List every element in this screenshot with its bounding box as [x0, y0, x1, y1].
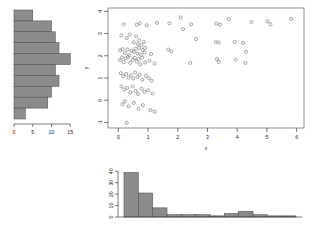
scatter-point — [167, 48, 170, 51]
axis-tick-label: 0 — [108, 215, 114, 218]
histogram-bar — [138, 193, 152, 217]
scatter-point — [142, 40, 145, 43]
scatter-point — [150, 79, 153, 82]
scatter-point — [119, 72, 122, 75]
y-axis-title: y — [83, 66, 89, 69]
scatter-point — [127, 105, 130, 108]
scatter-point — [137, 57, 140, 60]
scatter-point — [134, 89, 137, 92]
axis-tick-label: 15 — [67, 129, 73, 135]
histogram-bar — [239, 211, 253, 217]
axis-tick-label: 5 — [265, 134, 268, 140]
axis-tick-label: 2 — [176, 134, 179, 140]
scatter-point — [147, 89, 150, 92]
histogram-bar — [224, 214, 238, 217]
scatter-point — [139, 63, 142, 66]
scatter-point — [138, 22, 141, 25]
scatter-point — [217, 60, 220, 63]
scatter-point — [132, 41, 135, 44]
scatter-point — [122, 75, 125, 78]
histogram-bar — [196, 215, 210, 217]
scatter-point — [144, 74, 147, 77]
histogram-bar — [14, 86, 52, 97]
axis-tick-label: 20 — [108, 191, 114, 197]
axis-tick-label: 3 — [206, 134, 209, 140]
scatter-point — [155, 21, 158, 24]
scatter-point — [125, 36, 128, 39]
axis-tick-label: 10 — [108, 203, 114, 209]
scatter-point — [153, 110, 156, 113]
axis-tick-label: 1 — [147, 134, 150, 140]
x-marginal-histogram-svg: 010203040 — [82, 163, 314, 243]
axis-tick-label: 4 — [236, 134, 239, 140]
histogram-bar — [181, 215, 195, 217]
x-marginal-histogram-panel: 010203040 — [82, 163, 314, 243]
scatter-point — [214, 40, 217, 43]
scatter-point — [149, 109, 152, 112]
scatter-point — [118, 59, 121, 62]
scatter-point — [136, 92, 139, 95]
scatter-point — [147, 76, 150, 79]
axis-tick-label: 0 — [13, 129, 16, 135]
scatter-point — [120, 85, 123, 88]
axis-tick-label: 1 — [97, 76, 103, 79]
scatter-point — [122, 60, 125, 63]
scatter-point — [190, 23, 193, 26]
scatter-point — [233, 40, 236, 43]
axis-tick-label: 0 — [97, 99, 103, 102]
scatter-point — [217, 41, 220, 44]
scatter-point — [141, 78, 144, 81]
main-scatter-panel: -1012340123456xy — [82, 0, 314, 160]
scatter-point — [141, 104, 144, 107]
scatter-point — [244, 61, 247, 64]
scatter-point — [168, 22, 171, 25]
scatter-point — [137, 107, 140, 110]
scatter-point — [129, 74, 132, 77]
scatter-point — [131, 58, 134, 61]
scatter-point — [215, 22, 218, 25]
axis-tick-label: 0 — [117, 134, 120, 140]
scatter-point — [125, 121, 128, 124]
y-marginal-histogram-panel: 051015 — [0, 2, 82, 147]
histogram-bar — [253, 215, 267, 217]
main-scatter-svg: -1012340123456xy — [82, 0, 314, 160]
axis-tick-label: -1 — [97, 120, 103, 125]
scatter-point — [189, 61, 192, 64]
histogram-bar — [14, 43, 59, 54]
scatter-point — [121, 103, 124, 106]
scatter-point — [138, 46, 141, 49]
scatter-point — [131, 85, 134, 88]
scatter-point — [182, 28, 185, 31]
scatter-point — [140, 87, 143, 90]
scatter-point — [123, 88, 126, 91]
scatter-point — [242, 41, 245, 44]
histogram-bar — [124, 172, 138, 217]
scatter-point — [138, 39, 141, 42]
scatter-point — [141, 56, 144, 59]
axis-tick-label: 3 — [97, 32, 103, 35]
histogram-bar — [14, 32, 55, 43]
x-axis-title: x — [205, 145, 208, 151]
axis-tick-label: 6 — [295, 134, 298, 140]
histogram-bar — [153, 208, 167, 217]
scatter-point — [234, 58, 237, 61]
histogram-bar — [14, 75, 59, 86]
scatter-point — [245, 50, 248, 53]
scatter-point — [136, 52, 139, 55]
scatter-point — [170, 50, 173, 53]
scatter-point — [126, 86, 129, 89]
scatter-point — [132, 77, 135, 80]
axis-tick-label: 40 — [108, 168, 114, 174]
scatter-point — [125, 72, 128, 75]
scatter-point — [120, 56, 123, 59]
scatter-point — [145, 24, 148, 27]
axis-tick-label: 2 — [97, 54, 103, 57]
scatter-point — [143, 51, 146, 54]
scatter-point — [128, 33, 131, 36]
scatter-point — [140, 44, 143, 47]
scatter-point — [129, 61, 132, 64]
scatter-point — [120, 34, 123, 37]
axis-tick-label: 4 — [97, 10, 103, 13]
scatter-point — [290, 17, 293, 20]
scatter-point — [227, 18, 230, 21]
